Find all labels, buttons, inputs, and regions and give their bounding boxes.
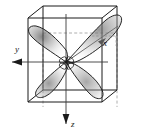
axis-label-z: z bbox=[70, 119, 75, 129]
nucleus-core bbox=[63, 59, 69, 65]
axis-label-x: x bbox=[102, 38, 107, 48]
axis-label-y: y bbox=[14, 44, 19, 54]
orbital-figure: y x z bbox=[0, 0, 149, 136]
